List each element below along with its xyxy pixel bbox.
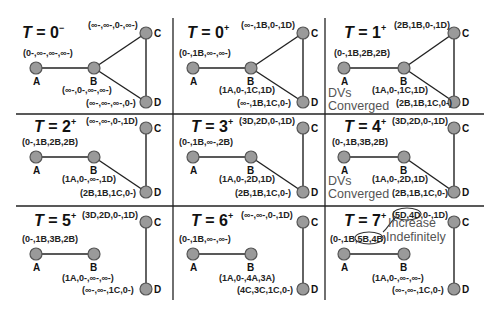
node-d	[140, 96, 152, 108]
node-a	[338, 62, 350, 74]
distance-vector-diagram: T = 0− A B C D (0-,∞-,∞-,∞-) (∞-,0-,∞-,∞…	[0, 0, 499, 314]
dv-d: (∞-,1B,1C,0-)	[237, 98, 291, 108]
panel-t2-plus: T = 2+ A B C D (0-,1B,2B,2B) (1A,0-,∞-,1…	[22, 116, 161, 198]
panel-t3-plus: T = 3+ A B C D (0-,1B,∞-,2B) (1A,0-,2D,1…	[179, 116, 318, 198]
dv-d: (4C,3C,1C,0-)	[237, 285, 293, 295]
panel-title: T = 2+	[34, 117, 76, 135]
node-b	[88, 248, 100, 260]
node-a	[338, 151, 350, 163]
panel-title: T = 5+	[34, 211, 76, 229]
panel-title: T = 7+	[344, 211, 386, 229]
node-d-label: D	[462, 97, 469, 108]
panel-t5-plus: T = 5+ A B C D (0-,1B,3B,2B) (1A,0-,∞-,∞…	[22, 210, 161, 295]
dv-a: (0-,1B,3B,2B)	[332, 137, 388, 147]
dv-a: (0-,1B,3B,2B)	[22, 234, 78, 244]
dv-c: (3D,2D,0-,1D)	[239, 116, 295, 126]
node-d	[140, 186, 152, 198]
dv-b: (1A,0-,2D,1D)	[372, 174, 428, 184]
dv-c: (2B,1B,0-,1D)	[394, 20, 450, 30]
node-c-label: C	[462, 28, 469, 39]
dv-d: (2B,1B,1C,0-)	[392, 188, 448, 198]
node-d	[448, 283, 460, 295]
node-a-label: A	[33, 165, 40, 176]
panel-t1-plus: T = 1+ A B C D (0-,1B,2B,2B) (1A,0-,1C,1…	[328, 20, 469, 113]
dv-a: (0-,1B,2B,2B)	[334, 48, 390, 58]
node-b	[398, 248, 410, 260]
dv-b: (1A,0-,1C,1D)	[219, 85, 275, 95]
node-a	[338, 248, 350, 260]
increase-note-line2: Indefinitely	[386, 230, 447, 244]
node-b	[245, 248, 257, 260]
panel-title: T = 0+	[187, 23, 229, 41]
panel-t0-minus: T = 0− A B C D (0-,∞-,∞-,∞-) (∞-,0-,∞-,∞…	[22, 20, 161, 108]
node-d-label: D	[154, 284, 161, 295]
node-a-label: A	[190, 76, 197, 87]
panel-t0-plus: T = 0+ A B C D (0-,1B,∞-,∞-) (1A,0-,1C,1…	[179, 20, 318, 108]
node-d	[297, 186, 309, 198]
node-c	[297, 122, 309, 134]
node-a	[187, 248, 199, 260]
node-a-label: A	[190, 165, 197, 176]
dv-c: (∞-,∞-,0-,1D)	[241, 210, 293, 220]
panel-t7-plus: T = 7+ A B C D (0-,1B,5B,4B) (1A,0-,∞-,∞…	[330, 208, 469, 295]
node-c-label: C	[154, 28, 161, 39]
node-b	[245, 151, 257, 163]
dv-d: (2B,1B,1C,0-)	[80, 188, 136, 198]
converged-note-line1: DVs	[328, 174, 352, 188]
node-c	[140, 122, 152, 134]
node-d-label: D	[462, 284, 469, 295]
dv-a: (0-,1B,∞-,∞-)	[179, 234, 231, 244]
node-b	[88, 151, 100, 163]
node-d-label: D	[154, 97, 161, 108]
panel-t6-plus: T = 6+ A B C D (0-,1B,∞-,∞-) (1A,0-,4A,3…	[179, 210, 318, 295]
node-a	[187, 62, 199, 74]
node-b-label: B	[90, 262, 97, 273]
node-a	[30, 151, 42, 163]
node-b	[398, 62, 410, 74]
node-a	[30, 62, 42, 74]
dv-d: (2B,1B,1C,0-)	[396, 98, 452, 108]
node-c-label: C	[154, 217, 161, 228]
converged-note-line1: DVs	[328, 86, 352, 100]
node-c-label: C	[462, 123, 469, 134]
node-d-label: D	[154, 187, 161, 198]
node-d	[297, 283, 309, 295]
node-a-label: A	[33, 262, 40, 273]
dv-b: (1A,0-,4A,3A)	[219, 273, 275, 283]
node-a	[30, 248, 42, 260]
dv-c: (3D,2D,0-,1D)	[392, 116, 448, 126]
dv-d: (∞-,∞-,∞-,0-)	[86, 98, 136, 108]
dv-c: (∞-,∞-,0-,1D)	[86, 116, 138, 126]
node-d-label: D	[462, 187, 469, 198]
node-d-label: D	[311, 284, 318, 295]
node-c	[448, 122, 460, 134]
node-a-label: A	[341, 262, 348, 273]
dv-a: (0-,∞-,∞-,∞-)	[23, 48, 73, 58]
dv-b: (1A,0-,∞-,∞-)	[372, 273, 424, 283]
dv-c: (3D,2D,0-,1D)	[82, 210, 138, 220]
node-d	[140, 283, 152, 295]
dv-a: (0-,1B,∞-,2B)	[179, 137, 233, 147]
dv-b: (∞-,0-,∞-,∞-)	[62, 85, 112, 95]
dv-b: (1A,0-,∞-,1D)	[62, 174, 116, 184]
edge-b-c	[251, 33, 303, 68]
node-a-label: A	[190, 262, 197, 273]
node-b	[245, 62, 257, 74]
dv-b: (1A,0-,2D,1D)	[219, 174, 275, 184]
node-c-label: C	[154, 123, 161, 134]
node-c	[297, 216, 309, 228]
node-c	[140, 216, 152, 228]
node-a-label: A	[33, 76, 40, 87]
node-c	[297, 27, 309, 39]
panel-title: T = 1+	[344, 23, 386, 41]
node-c	[448, 216, 460, 228]
converged-note-line2: Converged	[328, 99, 389, 113]
panel-t4-plus: T = 4+ A B C D (0-,1B,3B,2B) (1A,0-,2D,1…	[328, 116, 469, 201]
increase-note-line1: Increase	[388, 216, 436, 230]
dv-c: (∞-,∞-,0-,∞-)	[88, 20, 138, 30]
edge-b-c	[404, 33, 454, 68]
node-b-label: B	[247, 262, 254, 273]
converged-note-line2: Converged	[328, 187, 389, 201]
dv-c: (∞-,1B,0-,1D)	[241, 20, 295, 30]
node-d	[448, 186, 460, 198]
